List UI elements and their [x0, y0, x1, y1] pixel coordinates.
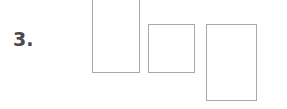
rectangle-group: [0, 0, 287, 109]
rectangle-2: [148, 24, 195, 73]
rectangle-3: [206, 24, 257, 101]
figure-canvas: 3.: [0, 0, 287, 109]
rectangle-1: [92, 0, 140, 73]
